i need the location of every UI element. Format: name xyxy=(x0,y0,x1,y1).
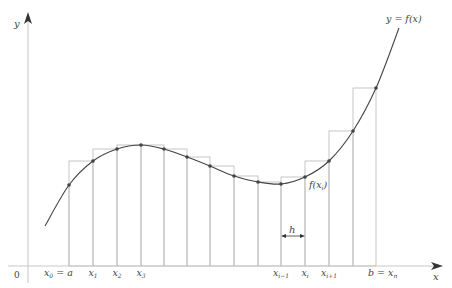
sample-point xyxy=(256,180,260,184)
x-tick-label: x0 = a xyxy=(44,267,73,279)
riemann-rectangle xyxy=(210,166,234,266)
point-label: f(xi) xyxy=(308,179,328,191)
sample-point xyxy=(327,159,331,163)
sample-point xyxy=(208,164,212,168)
sample-point xyxy=(67,183,71,187)
riemann-rectangle xyxy=(93,149,117,266)
step-label: h xyxy=(289,224,295,235)
riemann-rectangle xyxy=(281,177,305,266)
riemann-rectangle xyxy=(141,145,164,266)
function-curve xyxy=(45,28,399,226)
sample-point xyxy=(91,159,95,163)
riemann-sum-diagram: h y x 0 y = f(x) f(xi) x0 = ax1x2x3xi−1x… xyxy=(0,0,452,288)
riemann-rectangle xyxy=(353,88,376,266)
sample-point xyxy=(139,143,143,147)
riemann-rectangles xyxy=(69,88,376,266)
sample-point xyxy=(374,86,378,90)
riemann-rectangle xyxy=(305,161,329,266)
arrow-left-icon xyxy=(281,234,286,238)
y-axis-label: y xyxy=(13,18,20,29)
x-tick-label: x2 xyxy=(112,267,121,279)
x-tick-label: b = xn xyxy=(368,267,397,279)
x-tick-label: x1 xyxy=(88,267,97,279)
arrow-right-icon xyxy=(300,234,305,238)
axes xyxy=(8,12,443,283)
riemann-rectangle xyxy=(69,161,93,266)
x-axis-label: x xyxy=(433,271,439,282)
sample-point xyxy=(115,147,119,151)
step-width-marker: h xyxy=(281,224,305,238)
sample-point xyxy=(232,174,236,178)
riemann-rectangle xyxy=(117,145,141,266)
x-tick-label: xi xyxy=(301,267,308,279)
riemann-rectangle xyxy=(258,182,281,266)
riemann-rectangle xyxy=(187,157,210,266)
x-tick-label: xi−1 xyxy=(273,267,289,279)
sample-point xyxy=(303,175,307,179)
curve-label: y = f(x) xyxy=(385,13,422,24)
riemann-rectangle xyxy=(234,176,258,266)
sample-point xyxy=(162,147,166,151)
sample-point xyxy=(185,155,189,159)
x-tick-labels: x0 = ax1x2x3xi−1xixi+1b = xn xyxy=(44,267,397,279)
sample-point xyxy=(279,182,283,186)
x-tick-label: xi+1 xyxy=(321,267,337,279)
riemann-rectangle xyxy=(329,131,353,266)
riemann-rectangle xyxy=(164,149,187,266)
sample-point xyxy=(351,129,355,133)
x-tick-label: x3 xyxy=(136,267,145,279)
origin-label: 0 xyxy=(14,270,20,280)
